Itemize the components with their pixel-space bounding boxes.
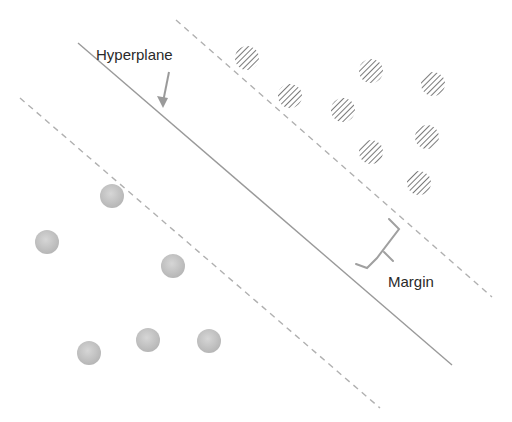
hyperplane-arrow-icon: [157, 72, 169, 108]
hatched-data-point: [278, 84, 302, 108]
hatched-data-point: [407, 171, 431, 195]
lower-margin-line: [20, 98, 380, 408]
solid-class-points: [35, 184, 221, 365]
upper-margin-line: [176, 20, 492, 297]
solid-data-point: [100, 184, 124, 208]
solid-data-point: [35, 230, 59, 254]
hyperplane-label: Hyperplane: [96, 46, 173, 63]
hatched-data-point: [421, 72, 445, 96]
hatched-class-points: [235, 46, 445, 195]
hatched-data-point: [235, 46, 259, 70]
hatched-data-point: [359, 59, 383, 83]
margin-bracket-icon: [356, 219, 399, 268]
solid-data-point: [136, 328, 160, 352]
solid-data-point: [161, 254, 185, 278]
hatched-data-point: [359, 140, 383, 164]
hyperplane-line: [78, 43, 452, 365]
hatched-data-point: [331, 98, 355, 122]
svm-diagram: Hyperplane Margin: [0, 0, 512, 422]
solid-data-point: [77, 341, 101, 365]
margin-label: Margin: [388, 273, 434, 290]
solid-data-point: [197, 329, 221, 353]
hatched-data-point: [415, 125, 439, 149]
